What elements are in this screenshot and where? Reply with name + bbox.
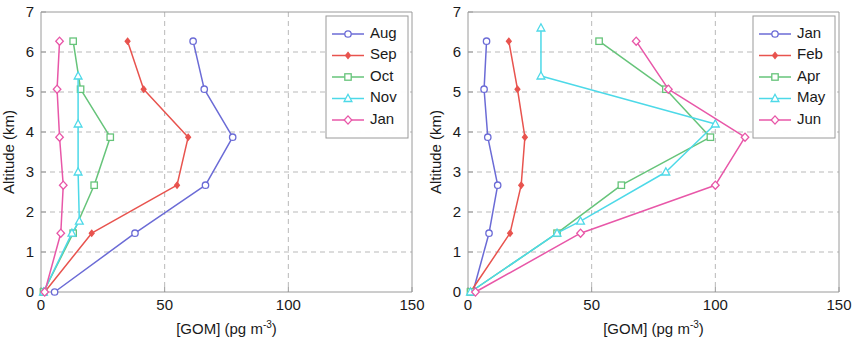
x-tick-label: 100 — [703, 296, 728, 313]
data-point-marker — [175, 182, 180, 188]
data-point-marker — [577, 229, 585, 237]
figure-root: 05010015001234567[GOM] (pg m-3)Altitude … — [0, 0, 854, 339]
data-point-marker — [618, 182, 624, 188]
data-point-marker — [712, 181, 720, 189]
legend-item-label: Oct — [370, 67, 394, 84]
data-point-marker — [707, 134, 713, 140]
data-point-marker — [486, 230, 492, 236]
y-tick-label: 5 — [26, 83, 34, 100]
series-jan — [470, 38, 501, 295]
y-tick-label: 3 — [453, 163, 461, 180]
data-point-marker — [51, 289, 57, 295]
data-point-marker — [494, 182, 500, 188]
x-axis-title: [GOM] (pg m-3) — [176, 319, 277, 337]
legend: JanFebAprMayJun — [753, 16, 835, 138]
series-sep — [42, 38, 190, 295]
data-point-marker — [481, 86, 487, 92]
data-point-marker — [107, 134, 113, 140]
series-may — [467, 24, 720, 295]
series-feb — [468, 38, 527, 295]
y-tick-label: 2 — [26, 203, 34, 220]
legend-item-label: Apr — [797, 67, 820, 84]
chart-panel-right: 05010015001234567[GOM] (pg m-3)Altitude … — [427, 0, 854, 339]
series-jun — [472, 37, 749, 296]
y-axis-title: Altitude (km) — [0, 110, 17, 194]
legend-item-label: Jan — [370, 110, 394, 127]
series-line — [45, 41, 64, 292]
data-point-marker — [57, 229, 65, 237]
data-point-marker — [74, 168, 82, 175]
x-tick-label: 50 — [156, 296, 173, 313]
x-tick-label: 150 — [399, 296, 424, 313]
y-tick-label: 6 — [26, 43, 34, 60]
y-tick-label: 1 — [26, 243, 34, 260]
y-tick-label: 0 — [453, 283, 461, 300]
data-point-marker — [132, 230, 138, 236]
series-apr — [467, 38, 713, 295]
data-point-marker — [59, 181, 67, 189]
legend-item-label: Feb — [797, 45, 823, 62]
data-point-marker — [125, 38, 130, 44]
data-point-marker — [537, 24, 545, 31]
data-point-marker — [772, 74, 778, 80]
legend-item-label: Jun — [797, 110, 821, 127]
y-axis-title: Altitude (km) — [427, 110, 444, 194]
y-tick-label: 4 — [26, 123, 34, 140]
x-tick-label: 50 — [583, 296, 600, 313]
x-tick-label: 0 — [464, 296, 472, 313]
x-axis-title: [GOM] (pg m-3) — [603, 319, 704, 337]
data-point-marker — [483, 38, 489, 44]
data-point-marker — [190, 38, 196, 44]
series-group — [40, 37, 236, 296]
series-line — [470, 41, 524, 292]
x-tick-label: 100 — [276, 296, 301, 313]
legend-item-label: Sep — [370, 45, 397, 62]
data-point-marker — [522, 134, 527, 140]
data-point-marker — [772, 31, 778, 37]
data-point-marker — [506, 38, 511, 44]
data-point-marker — [74, 72, 82, 79]
legend: AugSepOctNovJan — [326, 16, 408, 138]
data-point-marker — [229, 134, 235, 140]
y-tick-label: 0 — [26, 283, 34, 300]
chart-svg-left: 05010015001234567[GOM] (pg m-3)Altitude … — [0, 0, 427, 339]
data-point-marker — [741, 133, 749, 141]
series-group — [467, 24, 749, 296]
data-point-marker — [56, 37, 64, 45]
data-point-marker — [515, 86, 520, 92]
series-line — [45, 41, 188, 292]
legend-item-label: Nov — [370, 88, 397, 105]
series-line — [473, 41, 498, 292]
data-point-marker — [70, 38, 76, 44]
y-tick-label: 7 — [26, 3, 34, 20]
data-point-marker — [56, 133, 64, 141]
series-line — [470, 41, 710, 292]
y-tick-label: 3 — [26, 163, 34, 180]
legend-item-label: Jan — [797, 24, 821, 41]
data-point-marker — [345, 31, 351, 37]
chart-svg-right: 05010015001234567[GOM] (pg m-3)Altitude … — [427, 0, 854, 339]
y-tick-label: 7 — [453, 3, 461, 20]
legend-item-label: May — [797, 88, 826, 105]
x-tick-label: 150 — [826, 296, 851, 313]
y-tick-label: 5 — [453, 83, 461, 100]
legend-item-label: Aug — [370, 24, 397, 41]
y-tick-label: 1 — [453, 243, 461, 260]
data-point-marker — [74, 120, 82, 127]
data-point-marker — [519, 182, 524, 188]
data-point-marker — [345, 74, 351, 80]
y-tick-label: 2 — [453, 203, 461, 220]
data-point-marker — [75, 217, 83, 224]
data-point-marker — [202, 182, 208, 188]
chart-panel-left: 05010015001234567[GOM] (pg m-3)Altitude … — [0, 0, 427, 339]
data-point-marker — [485, 134, 491, 140]
data-point-marker — [91, 182, 97, 188]
series-jan — [41, 37, 67, 296]
x-tick-label: 0 — [37, 296, 45, 313]
data-point-marker — [596, 38, 602, 44]
data-point-marker — [537, 72, 545, 79]
y-tick-label: 4 — [453, 123, 461, 140]
data-point-marker — [201, 86, 207, 92]
y-tick-label: 6 — [453, 43, 461, 60]
